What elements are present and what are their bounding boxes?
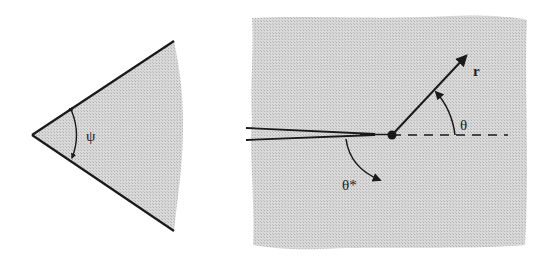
wedge-fill [32, 41, 183, 231]
psi-label: ψ [86, 128, 96, 144]
theta-star-label: θ* [342, 177, 357, 193]
wedge-panel: ψ [32, 41, 183, 231]
figure: ψ r θ θ* [0, 0, 553, 260]
r-label: r [473, 63, 480, 79]
theta-label: θ [460, 117, 467, 133]
crack-panel: r θ θ* [246, 15, 527, 249]
